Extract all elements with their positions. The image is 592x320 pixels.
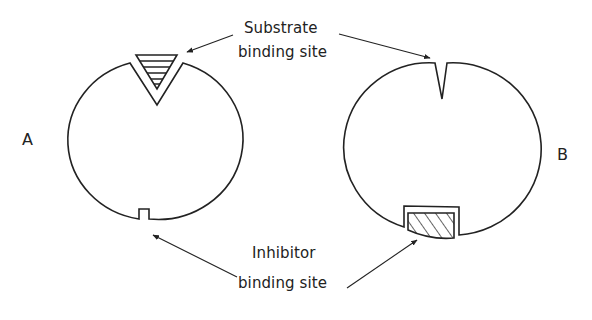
enzyme-a-label: A xyxy=(22,132,33,148)
arrow-inhibitor-to-a xyxy=(153,235,237,277)
substrate-label-line2: binding site xyxy=(238,45,327,60)
enzyme-b xyxy=(344,63,541,235)
arrow-substrate-to-b xyxy=(339,34,430,58)
inhibitor-label-line1: Inhibitor xyxy=(252,246,315,261)
arrow-substrate-to-a xyxy=(187,35,233,52)
enzyme-b-label: B xyxy=(557,147,568,163)
inhibitor-molecule xyxy=(400,205,460,245)
arrow-inhibitor-to-b xyxy=(347,240,417,288)
substrate-label-line1: Substrate xyxy=(244,21,318,36)
inhibitor-label-line2: binding site xyxy=(238,276,327,291)
enzyme-b-outline xyxy=(344,63,541,235)
